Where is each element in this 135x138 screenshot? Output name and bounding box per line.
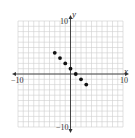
data-point xyxy=(84,83,88,87)
x-max-tick-label: 10 xyxy=(120,77,128,85)
data-point xyxy=(69,67,73,71)
data-point xyxy=(63,62,67,66)
y-min-tick-label: −10 xyxy=(56,124,69,132)
y-max-tick-label: 10 xyxy=(60,18,68,26)
y-axis-label: y xyxy=(72,10,76,19)
x-axis-label: x xyxy=(124,67,128,76)
x-min-tick-label: −10 xyxy=(11,77,24,85)
data-point xyxy=(58,56,62,60)
y-axis-arrow-down-icon xyxy=(69,129,73,133)
data-point xyxy=(79,77,83,81)
data-point xyxy=(74,72,78,76)
data-point xyxy=(53,51,57,55)
